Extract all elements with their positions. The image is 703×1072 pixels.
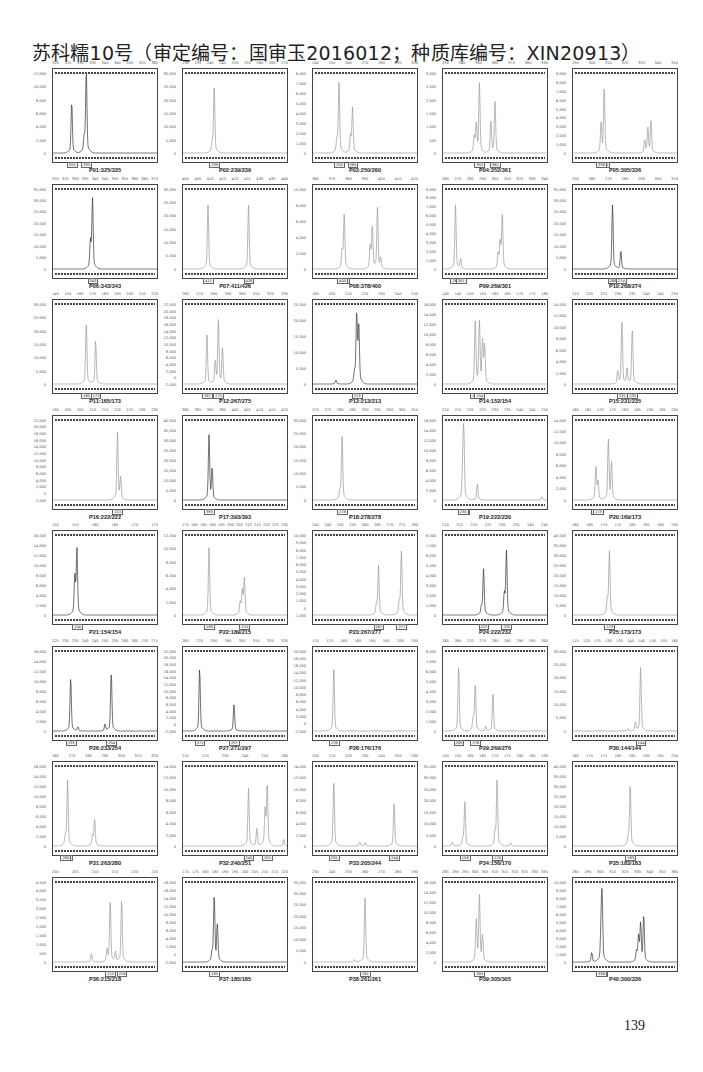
x-tick-label: 390 (362, 177, 369, 181)
x-tick-label: 180 (102, 292, 109, 296)
x-tick-label: 160 (572, 523, 579, 527)
x-tick-label: 260 (589, 177, 596, 181)
x-tick-label: 195 (383, 639, 390, 643)
x-tick-label: 200 (52, 870, 59, 874)
x-tick-label: 175 (529, 292, 536, 296)
y-tick-label: 6,000 (286, 811, 306, 815)
x-tick-label: 260 (182, 292, 189, 296)
y-tick-label: 16,000 (156, 323, 176, 327)
x-tick-label: 180 (340, 639, 347, 643)
y-tick-label: 12,000 (546, 314, 566, 318)
y-tick-label: 25,000 (286, 432, 306, 436)
y-tick-label: 5,000 (546, 921, 566, 925)
x-axis-ticks: 115120125130135140145150155160 (572, 639, 678, 643)
x-tick-label: 235 (629, 292, 636, 296)
y-tick-label: 6,000 (286, 220, 306, 224)
plot-area (312, 184, 418, 279)
x-tick-label: 170 (600, 523, 607, 527)
x-tick-label: 150 (467, 292, 474, 296)
y-tick-label: 10,000 (26, 564, 46, 568)
y-tick-label: 1,500 (26, 934, 46, 938)
y-tick-label: 10,000 (26, 245, 46, 249)
x-tick-label: 300 (118, 754, 125, 758)
y-tick-label: 12,000 (26, 670, 46, 674)
y-tick-label: 8,000 (286, 549, 306, 553)
x-axis-ticks: 230235240245250255260265270 (182, 61, 288, 65)
y-tick-label: 10,000 (546, 594, 566, 598)
y-tick-label: 5,000 (26, 256, 46, 260)
panel-label: P02:239/239 (182, 167, 288, 173)
y-tick-label: 8,000 (156, 921, 176, 925)
x-tick-label: 215 (102, 408, 109, 412)
x-tick-label: 255 (111, 639, 118, 643)
x-tick-label: 300 (589, 61, 596, 65)
y-tick-label: 16,000 (26, 650, 46, 654)
y-tick-label: 8,000 (26, 99, 46, 103)
plot-area (312, 761, 418, 856)
plot-area (52, 877, 158, 972)
y-tick-label: 15,000 (546, 233, 566, 237)
y-tick-label: -2,000 (156, 383, 176, 387)
x-tick-label: 245 (324, 523, 331, 527)
chart-panel-p10: 25026027028029030031035,00030,00025,0002… (546, 176, 678, 291)
y-tick-label: 8,000 (286, 72, 306, 76)
y-tick-label: 6,000 (156, 929, 176, 933)
y-tick-label: 8,000 (546, 897, 566, 901)
x-axis-ticks: 285290295300305310315320325330335 (442, 870, 548, 874)
trace-icon (313, 416, 417, 509)
y-tick-label: 14,000 (26, 660, 46, 664)
x-tick-label: 250 (232, 61, 239, 65)
y-tick-label: 8,000 (156, 350, 176, 354)
chart-panel-p11: 14015016017018019020021022030,00025,0002… (26, 291, 158, 406)
y-tick-label: 8,000 (26, 805, 46, 809)
x-tick-label: 155 (454, 754, 461, 758)
x-tick-label: 310 (253, 639, 260, 643)
y-tick-label: 8,000 (416, 196, 436, 200)
x-axis-ticks: 250260270280290300310 (572, 177, 678, 181)
y-tick-label: 10,000 (26, 459, 46, 463)
y-tick-label: 15,000 (546, 815, 566, 819)
y-tick-label: 4,000 (416, 941, 436, 945)
y-tick-label: 30,000 (416, 776, 436, 780)
y-tick-label: 9,000 (546, 889, 566, 893)
y-tick-label: 8,000 (156, 561, 176, 565)
x-tick-label: 290 (479, 177, 486, 181)
y-tick-label: 14,000 (416, 313, 436, 317)
x-axis-ticks: 260270280290300310320330 (182, 292, 288, 296)
x-tick-label: 335 (82, 177, 89, 181)
x-tick-label: 270 (605, 177, 612, 181)
x-tick-label: 175 (182, 523, 189, 527)
chart-panel-p13: 19020021022023024025025,00020,00015,0001… (286, 291, 418, 406)
y-tick-label: 8,000 (26, 465, 46, 469)
y-tick-label: 7,000 (546, 90, 566, 94)
x-tick-label: 180 (516, 754, 523, 758)
plot-area (52, 646, 158, 741)
y-tick-label: 4,000 (416, 232, 436, 236)
y-tick-label: 4,000 (156, 710, 176, 714)
y-tick-label: 5,000 (546, 108, 566, 112)
x-tick-label: 220 (467, 408, 474, 412)
panel-label: P08:378/400 (312, 283, 418, 289)
y-tick-label: 16,000 (156, 670, 176, 674)
y-tick-label: 1,500 (416, 112, 436, 116)
y-tick-label: 8,000 (156, 696, 176, 700)
x-axis-ticks: 150155160165170175 (52, 523, 158, 527)
x-tick-label: 270 (454, 177, 461, 181)
x-tick-label: 225 (484, 523, 491, 527)
y-tick-label: 6,000 (416, 214, 436, 218)
x-tick-label: 360 (671, 870, 678, 874)
y-tick-label: 6,000 (26, 815, 46, 819)
x-tick-label: 165 (479, 754, 486, 758)
x-tick-label: 250 (261, 754, 268, 758)
y-tick-label: 22,000 (156, 650, 176, 654)
chart-panel-p08: 36037038039040041042010,0008,0006,0004,0… (286, 176, 418, 291)
x-tick-label: 270 (141, 639, 148, 643)
x-tick-label: 275 (324, 408, 331, 412)
y-tick-label: 2,000 (416, 594, 436, 598)
y-tick-label: 20,000 (156, 459, 176, 463)
x-tick-label: 135 (616, 639, 623, 643)
x-tick-label: 270 (312, 408, 319, 412)
y-tick-label: 6,000 (286, 700, 306, 704)
trace-icon (53, 185, 157, 278)
x-tick-label: 310 (492, 870, 499, 874)
